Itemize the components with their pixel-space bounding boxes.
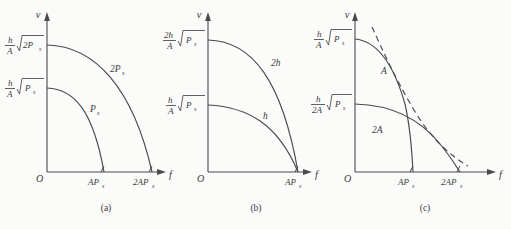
panel-c-y-tick-2-denominator: 2A bbox=[312, 105, 323, 115]
panel-a-inner-curve-label-text: P bbox=[89, 104, 96, 114]
panel-c-x-axis-arrow bbox=[487, 169, 496, 175]
panel-b-x-tick-label-1-sub: s bbox=[299, 183, 302, 189]
panel-c-y-tick-1-denominator: A bbox=[315, 40, 322, 50]
panel-a-x-tick-label-1: AP s bbox=[87, 177, 105, 189]
panel-b-y-tick-2-denominator: A bbox=[167, 106, 174, 116]
panel-a-y-axis-arrow bbox=[44, 12, 50, 21]
panel-a: v f O 2P s P s AP s 2AP s h bbox=[5, 9, 174, 214]
panel-b-y-tick-1-denominator: A bbox=[166, 41, 173, 51]
panel-a-x-tick-label-2: 2AP s bbox=[133, 177, 155, 189]
panel-c-x-tick-label-2-sub: s bbox=[460, 183, 463, 189]
panel-c-y-tick-1-radicand-sub: s bbox=[342, 40, 345, 46]
panel-b-inner-curve-label: h bbox=[263, 111, 268, 121]
panel-b-x-tick-label-1-text: AP bbox=[284, 177, 296, 187]
panel-b-y-tick-label-1: 2h A P s bbox=[163, 30, 205, 51]
panel-a-inner-curve bbox=[47, 88, 104, 172]
panel-c-x-tick-label-1: AP s bbox=[397, 177, 415, 189]
panel-b-y-tick-1-radicand-sub: s bbox=[194, 41, 197, 47]
panel-a-y-tick-2-denominator: A bbox=[6, 89, 13, 99]
panel-c-y-tick-2-radicand: P bbox=[334, 99, 341, 109]
panel-c-y-axis-arrow bbox=[352, 12, 358, 21]
panel-c-caption: (c) bbox=[420, 203, 431, 214]
panel-c-curve-2A-label: 2A bbox=[372, 125, 383, 135]
panel-c: v f O A 2A AP s 2AP s h A P s bbox=[311, 9, 504, 214]
three-panel-figure: v f O 2P s P s AP s 2AP s h bbox=[0, 0, 511, 229]
panel-c-envelope-curve bbox=[372, 27, 468, 166]
panel-c-x-tick-label-1-text: AP bbox=[397, 177, 409, 187]
panel-a-y-axis-label: v bbox=[36, 9, 41, 20]
panel-a-caption: (a) bbox=[101, 203, 112, 214]
panel-c-x-tick-label-2: 2AP s bbox=[441, 177, 463, 189]
panel-b-y-tick-2-radicand: P bbox=[185, 100, 192, 110]
panel-b-y-axis-label: v bbox=[197, 9, 202, 20]
panel-a-y-tick-label-2: h A P s bbox=[5, 78, 44, 99]
panel-b-x-axis-label: f bbox=[315, 169, 320, 180]
panel-b-caption: (b) bbox=[250, 203, 261, 214]
panel-b-y-tick-label-2: h A P s bbox=[166, 95, 205, 116]
panel-a-x-tick-label-1-text: AP bbox=[87, 177, 99, 187]
panel-c-curve-A-label: A bbox=[380, 66, 387, 76]
panel-b-y-tick-2-radical-sign bbox=[178, 96, 205, 112]
panel-a-y-tick-1-radicand-sub: s bbox=[39, 46, 42, 52]
panel-a-inner-curve-label-sub: s bbox=[97, 109, 100, 116]
panel-a-x-axis-arrow bbox=[157, 169, 166, 175]
panel-a-x-tick-label-1-sub: s bbox=[102, 183, 105, 189]
panel-b-y-tick-2-radicand-sub: s bbox=[194, 106, 197, 112]
panel-a-outer-curve-label-sub: s bbox=[122, 69, 125, 76]
panel-c-origin-label: O bbox=[344, 173, 351, 184]
panel-c-y-tick-label-1: h A P s bbox=[314, 29, 352, 50]
panel-a-origin-label: O bbox=[36, 173, 43, 184]
panel-a-x-axis-label: f bbox=[169, 169, 174, 180]
panel-a-y-tick-2-numerator: h bbox=[8, 78, 13, 88]
panel-c-y-tick-2-radicand-sub: s bbox=[343, 105, 346, 111]
panel-c-x-axis-label: f bbox=[499, 169, 504, 180]
panel-a-x-tick-label-2-sub: s bbox=[152, 183, 155, 189]
panel-c-y-tick-2-numerator: h bbox=[316, 94, 321, 104]
panel-a-outer-curve-label-text: 2P bbox=[110, 64, 121, 74]
panel-a-y-tick-1-numerator: h bbox=[8, 35, 13, 45]
panel-b: v f O 2h h AP s 2h A P s h A P bbox=[163, 9, 320, 214]
panel-a-y-tick-1-denominator: A bbox=[6, 46, 13, 56]
panel-c-x-tick-label-2-text: 2AP bbox=[441, 177, 457, 187]
panel-a-y-tick-2-radicand-sub: s bbox=[33, 89, 36, 95]
panel-b-outer-curve-label: 2h bbox=[271, 58, 281, 68]
panel-a-x-tick-label-2-text: 2AP bbox=[133, 177, 149, 187]
panel-c-y-axis-label: v bbox=[345, 9, 350, 20]
panel-b-x-tick-label-1: AP s bbox=[284, 177, 302, 189]
panel-a-y-tick-1-radicand: 2P bbox=[23, 40, 34, 50]
panel-a-inner-curve-label: P s bbox=[89, 104, 100, 116]
panel-b-y-tick-1-numerator: 2h bbox=[164, 30, 174, 40]
panel-c-x-tick-label-1-sub: s bbox=[412, 183, 415, 189]
panel-b-x-axis-arrow bbox=[303, 169, 312, 175]
panel-b-y-tick-1-radicand: P bbox=[185, 35, 192, 45]
panel-b-y-axis-arrow bbox=[205, 12, 211, 21]
panel-b-y-tick-2-numerator: h bbox=[168, 95, 173, 105]
panel-c-curve-A bbox=[355, 39, 413, 172]
panel-c-y-tick-1-numerator: h bbox=[317, 29, 322, 39]
panel-a-y-tick-label-1: h A 2P s bbox=[5, 35, 44, 56]
panel-a-y-tick-2-radical-sign bbox=[17, 79, 44, 95]
panel-c-y-tick-label-2: h 2A P s bbox=[311, 94, 352, 115]
panel-a-y-tick-2-radicand: P bbox=[24, 83, 31, 93]
panel-a-outer-curve-label: 2P s bbox=[110, 64, 125, 76]
panel-c-y-tick-1-radicand: P bbox=[333, 34, 340, 44]
panel-b-y-tick-1-radical-sign bbox=[178, 31, 205, 47]
panel-b-origin-label: O bbox=[197, 173, 204, 184]
